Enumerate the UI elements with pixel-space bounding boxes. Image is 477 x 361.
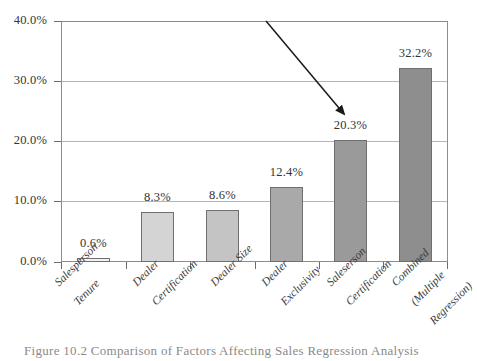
y-axis-tick-label-20: 20.0% <box>14 133 47 148</box>
y-axis-tick-label-10: 10.0% <box>14 193 47 208</box>
x-axis-label-line1: Dealer <box>259 257 290 288</box>
bar-value-label-dealer-size: 8.6% <box>190 188 255 203</box>
x-axis-label-line1: Dealer <box>130 257 161 288</box>
gridline-30 <box>62 81 447 82</box>
y-axis-labels: 40.0% 30.0% 20.0% 10.0% 0.0% <box>0 0 57 361</box>
figure-caption: Figure 10.2 Comparison of Factors Affect… <box>24 343 444 361</box>
y-axis-tick-label-0: 0.0% <box>20 254 47 269</box>
bar-value-label-saleserson-certification: 20.3% <box>318 118 383 133</box>
y-axis-tick-label-40: 40.0% <box>14 13 47 28</box>
y-axis-tick-label-30: 30.0% <box>14 73 47 88</box>
x-axis-label-line2: Tenure <box>71 277 101 307</box>
gridline-20 <box>62 141 447 142</box>
x-axis-label-line2: (Multiple <box>408 268 447 307</box>
bar-value-label-dealer-exclusivity: 12.4% <box>254 165 319 180</box>
bar-value-label-combined: 32.2% <box>383 46 448 61</box>
bar-value-label-dealer-certification: 8.3% <box>125 190 190 205</box>
